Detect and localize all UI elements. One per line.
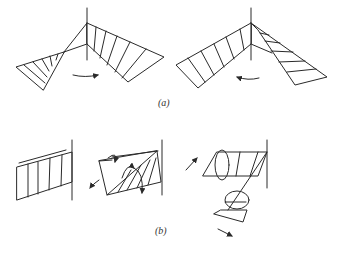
diagram-b-left: [17, 140, 72, 200]
outward-arrow-icon: [90, 180, 99, 188]
diagram-a-left: [16, 8, 164, 90]
figure-label-b: (b): [155, 225, 167, 236]
down-arrow-icon: [134, 168, 142, 193]
diagram-b-middle: [90, 140, 162, 195]
down-arrow-icon: [218, 229, 232, 236]
clockwise-arrow-icon: [73, 75, 98, 77]
lower-panel: [214, 210, 247, 222]
diagram-b-right: [186, 140, 267, 236]
panel: [17, 152, 72, 200]
upper-panel: [203, 152, 267, 176]
figure-label-a: (a): [158, 97, 170, 108]
counterclockwise-arrow-icon: [237, 77, 259, 79]
diagram-a-right: [176, 8, 327, 88]
right-panel: [251, 23, 327, 85]
twist-arrow-icon: [225, 191, 249, 209]
figure-canvas: [0, 0, 345, 256]
up-arrow-icon: [186, 158, 197, 170]
